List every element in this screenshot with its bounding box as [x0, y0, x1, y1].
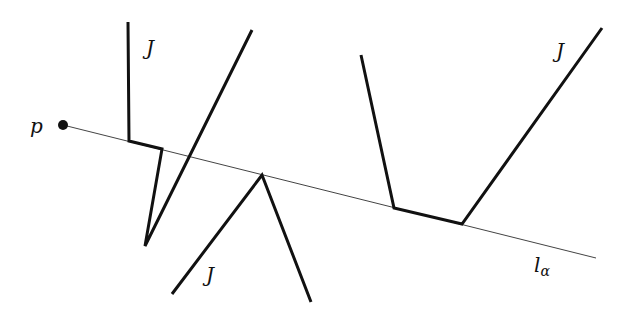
- curve-label-j: J: [552, 39, 565, 63]
- point-p: [58, 120, 68, 130]
- diagram-canvas: p J J J lα: [0, 0, 628, 321]
- curve-j-middle: [172, 175, 311, 302]
- curve-label-j: J: [142, 36, 155, 60]
- curve-label-j: J: [202, 263, 215, 287]
- ray-label-subscript: α: [540, 263, 550, 279]
- ray-label: lα: [534, 253, 550, 279]
- point-label-p: p: [30, 114, 43, 138]
- curve-j-right: [361, 28, 602, 224]
